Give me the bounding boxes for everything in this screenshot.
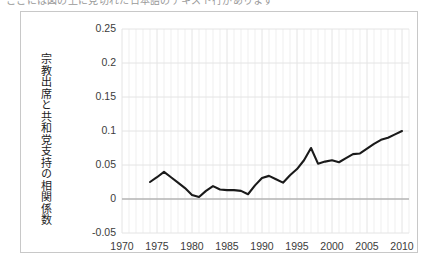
screenshot-root: ここには図の上に見切れた日本語のテキスト行があります 宗教出席と共和党支持の相関… xyxy=(0,0,428,265)
clipped-top-text-row: ここには図の上に見切れた日本語のテキスト行があります xyxy=(0,0,428,7)
clipped-top-text: ここには図の上に見切れた日本語のテキスト行があります xyxy=(6,0,274,7)
y-axis-title: 宗教出席と共和党支持の相関係数 xyxy=(28,44,52,234)
chart-container xyxy=(20,11,418,253)
